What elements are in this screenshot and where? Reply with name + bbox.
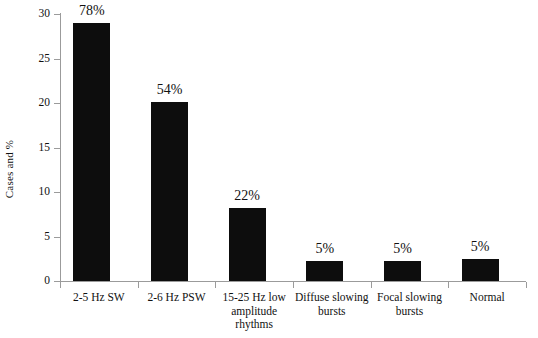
bar-value-label: 5% bbox=[368, 242, 437, 256]
bar bbox=[384, 261, 421, 281]
bar bbox=[229, 208, 266, 281]
y-axis-tick-label: 30 bbox=[0, 8, 50, 20]
x-axis-tick bbox=[448, 282, 449, 288]
x-axis-category-label-line: 15-25 Hz low bbox=[209, 291, 299, 305]
x-axis-category-label: 15-25 Hz lowamplituderhythms bbox=[209, 291, 299, 332]
x-axis-tick bbox=[138, 282, 139, 288]
x-axis-category-label-line: bursts bbox=[365, 305, 455, 319]
y-axis-title: Cases and % bbox=[0, 0, 18, 338]
bar-value-label: 5% bbox=[446, 240, 515, 254]
x-axis-tick bbox=[215, 282, 216, 288]
y-axis-tick-label: 0 bbox=[0, 275, 50, 287]
x-axis-tick bbox=[526, 282, 527, 288]
x-axis-category-label-line: bursts bbox=[287, 305, 377, 319]
x-axis-category-label-line: Focal slowing bbox=[365, 291, 455, 305]
x-axis-category-label-line: 2-6 Hz PSW bbox=[132, 291, 222, 305]
bar-value-label: 22% bbox=[213, 189, 282, 203]
x-axis-tick bbox=[371, 282, 372, 288]
bar-value-label: 5% bbox=[290, 242, 359, 256]
x-axis-category-label-line: Normal bbox=[442, 291, 532, 305]
x-axis-category-label: Diffuse slowingbursts bbox=[287, 291, 377, 318]
y-axis-tick-label: 5 bbox=[0, 231, 50, 243]
x-axis-category-label: Normal bbox=[442, 291, 532, 305]
x-axis-category-label-line: Diffuse slowing bbox=[287, 291, 377, 305]
x-axis-category-label: Focal slowingbursts bbox=[365, 291, 455, 318]
x-axis-tick bbox=[293, 282, 294, 288]
bar-chart: Cases and % 051015202530 78%54%22%5%5%5%… bbox=[0, 0, 538, 338]
x-axis-category-label-line: rhythms bbox=[209, 318, 299, 332]
y-axis-tick-label: 25 bbox=[0, 53, 50, 65]
bar bbox=[306, 261, 343, 281]
x-axis-category-label-line: 2-5 Hz SW bbox=[54, 291, 144, 305]
bar bbox=[462, 259, 499, 281]
bar bbox=[151, 102, 188, 281]
y-axis-tick-label: 10 bbox=[0, 186, 50, 198]
x-axis-tick bbox=[60, 282, 61, 288]
x-axis-category-label: 2-6 Hz PSW bbox=[132, 291, 222, 305]
y-axis-tick-label: 20 bbox=[0, 97, 50, 109]
x-axis-category-label-line: amplitude bbox=[209, 305, 299, 319]
y-axis-tick-label: 15 bbox=[0, 142, 50, 154]
bar-value-label: 78% bbox=[57, 4, 126, 18]
x-axis-category-label: 2-5 Hz SW bbox=[54, 291, 144, 305]
bar bbox=[73, 23, 110, 281]
bar-value-label: 54% bbox=[135, 83, 204, 97]
